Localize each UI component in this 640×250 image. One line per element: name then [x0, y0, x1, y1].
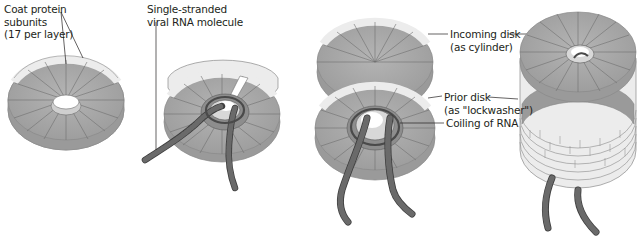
label-line: (as "lockwasher")	[444, 104, 533, 117]
label-line: Incoming disk	[450, 28, 520, 41]
label-line: (17 per layer)	[4, 28, 73, 41]
diagram-artwork	[0, 0, 640, 250]
label-prior-disk: Prior disk (as "lockwasher")	[444, 91, 533, 116]
label-line: Coiling of RNA	[446, 117, 518, 130]
label-line: Coat protein	[4, 3, 73, 16]
label-coat-protein-subunits: Coat protein subunits (17 per layer)	[4, 3, 73, 41]
label-line: Prior disk	[444, 91, 533, 104]
label-line: (as cylinder)	[450, 41, 520, 54]
label-line: viral RNA molecule	[147, 16, 243, 29]
label-incoming-disk: Incoming disk (as cylinder)	[450, 28, 520, 53]
tmv-assembly-diagram: Coat protein subunits (17 per layer) Sin…	[0, 0, 640, 250]
label-line: subunits	[4, 16, 73, 29]
disk-with-rna	[145, 22, 280, 188]
label-coiling-of-rna: Coiling of RNA	[446, 117, 518, 130]
helical-rod	[520, 12, 636, 232]
label-line: Single-stranded	[147, 3, 243, 16]
label-single-stranded-rna: Single-stranded viral RNA molecule	[147, 3, 243, 28]
